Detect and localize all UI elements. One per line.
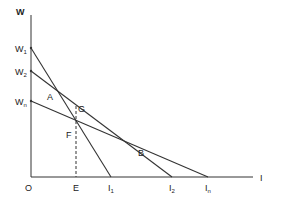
y-axis-label: W — [16, 7, 25, 17]
label-wn: Wn — [15, 97, 27, 108]
label-w1: W1 — [15, 44, 28, 55]
line-w1-i1 — [31, 48, 111, 177]
point-a: A — [47, 92, 53, 102]
label-i2: I2 — [169, 183, 176, 194]
point-b: B — [138, 148, 144, 158]
label-w2: W2 — [15, 67, 28, 78]
point-g: G — [78, 104, 85, 114]
budget-diagram: W I O W1 W2 Wn E I1 I2 In A G F B — [0, 0, 282, 224]
label-e: E — [73, 183, 79, 193]
x-axis-label: I — [260, 173, 263, 183]
label-i1: I1 — [108, 183, 115, 194]
label-in: In — [205, 183, 211, 194]
point-f: F — [66, 130, 72, 140]
line-wn-in — [31, 101, 208, 177]
origin-label: O — [25, 183, 32, 193]
